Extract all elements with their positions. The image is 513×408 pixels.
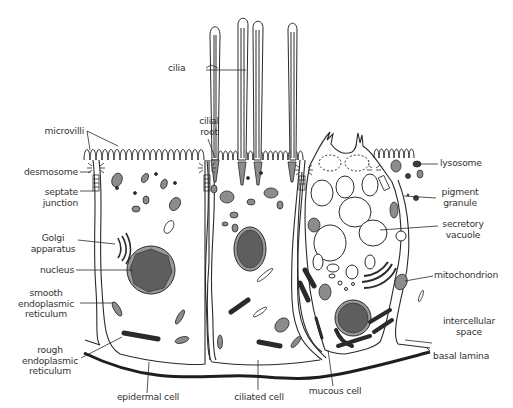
nucleus-mucous [335,300,371,336]
label-ciliated-cell: ciliated cell [222,392,296,403]
microvilli-left [84,150,204,161]
label-lysosome: lysosome [440,158,482,169]
label-epidermal-cell: epidermal cell [108,392,188,403]
cilial-roots [211,160,296,185]
cilia [210,18,297,160]
label-secretory-vacuole: secretory vacuole [437,219,489,240]
label-intercellular-space: intercellular space [434,316,504,337]
label-pigment-granule: pigment granule [436,187,484,208]
label-cilial-root: cilial root [193,116,225,137]
label-septate-junction: septate junction [20,187,78,208]
label-golgi-apparatus: Golgi apparatus [28,233,78,254]
secretory-vacuoles [311,155,406,291]
label-desmosome: desmosome [10,167,78,178]
label-cilia: cilia [168,63,185,74]
nucleus-ciliated [234,227,266,271]
label-basal-lamina: basal lamina [433,351,489,362]
label-smooth-er: smooth endoplasmic reticulum [14,288,78,320]
label-rough-er: rough endoplasmic reticulum [18,345,82,377]
golgi-epidermal [118,233,131,264]
label-nucleus: nucleus [20,265,74,276]
label-mitochondrion: mitochondrion [434,270,498,281]
epithelium-diagram: cilia cilial root microvilli desmosome s… [0,0,513,408]
label-microvilli: microvilli [26,126,84,137]
microvilli-right [374,149,414,158]
label-mucous-cell: mucous cell [300,386,370,397]
nucleus-epidermal [127,246,175,294]
